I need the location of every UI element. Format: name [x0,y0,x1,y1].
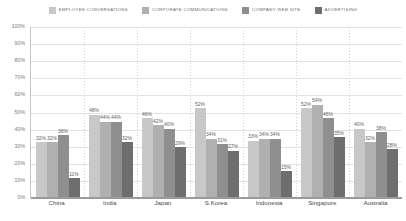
bar-group: 52%34%31%27% [190,27,243,197]
bar-value-label: 44% [100,115,110,120]
legend-swatch-icon [315,7,322,14]
bar[interactable]: 11% [69,26,80,197]
bar-fill [228,151,239,197]
bar-fill [69,178,80,197]
bar[interactable]: 35% [334,26,345,197]
bar[interactable]: 32% [365,26,376,197]
bar[interactable]: 40% [164,26,175,197]
bar-group: 32%32%36%11% [31,27,84,197]
bar-value-label: 36% [58,129,68,134]
legend-item[interactable]: COMPANY WEB SITE [242,7,300,14]
bar-group: 33%34%34%15% [243,27,296,197]
bar-group: 40%32%38%28% [349,27,402,197]
bar-fill [206,139,217,197]
y-axis-tick-label: 0% [18,195,26,200]
x-axis: ChinaIndiaJapanS.KoreaIndonesiaSingapore… [30,200,402,206]
bar[interactable]: 36% [58,26,69,197]
bar[interactable]: 48% [89,26,100,197]
bar[interactable]: 34% [259,26,270,197]
bar-fill [248,141,259,197]
bar-fill [281,171,292,197]
y-axis-tick-label: 60% [15,93,25,98]
bar-fill [142,118,153,197]
bar-fill [153,125,164,197]
bar-fill [301,108,312,197]
bar-fill [36,142,47,197]
bar-value-label: 48% [89,108,99,113]
bar-fill [58,135,69,197]
bar[interactable]: 31% [217,26,228,197]
y-axis-tick-label: 20% [15,161,25,166]
bar-value-label: 32% [47,136,57,141]
bar-fill [164,129,175,197]
legend-label: CORPORATE COMMUNICATIONS [152,8,228,12]
bar-value-label: 35% [334,131,344,136]
x-axis-category-label: S.Korea [189,200,242,206]
bar[interactable]: 34% [270,26,281,197]
bar[interactable]: 54% [312,26,323,197]
bar-fill [122,142,133,197]
bar-value-label: 15% [281,165,291,170]
bar-value-label: 32% [365,136,375,141]
legend-swatch-icon [49,7,56,14]
bar[interactable]: 46% [323,26,334,197]
plot-area: 32%32%36%11%48%44%44%32%46%42%40%29%52%3… [30,27,402,198]
bar-fill [334,137,345,197]
y-axis-tick-label: 40% [15,127,25,132]
bar-value-label: 52% [195,102,205,107]
bar[interactable]: 52% [195,26,206,197]
bar-value-label: 34% [206,132,216,137]
bar[interactable]: 34% [206,26,217,197]
x-axis-category-label: China [30,200,83,206]
bar-value-label: 34% [270,132,280,137]
y-axis: 100%90%80%70%60%50%40%30%20%10%0% [0,27,28,198]
legend-item[interactable]: ADVERTISING [315,7,358,14]
bar[interactable]: 27% [228,26,239,197]
bar-fill [217,144,228,197]
bar-fill [376,132,387,197]
bar-group: 48%44%44%32% [84,27,137,197]
bar-fill [270,139,281,197]
bar[interactable]: 42% [153,26,164,197]
legend-label: EMPLOYEE CONVERSATIONS [59,8,128,12]
legend-item[interactable]: EMPLOYEE CONVERSATIONS [49,7,128,14]
bar-value-label: 33% [248,134,258,139]
grouped-bar-chart: EMPLOYEE CONVERSATIONSCORPORATE COMMUNIC… [0,0,406,221]
legend-label: ADVERTISING [325,8,358,12]
x-axis-category-label: Indonesia [243,200,296,206]
bar[interactable]: 28% [387,26,398,197]
bar-fill [100,122,111,197]
x-axis-category-label: Australia [349,200,402,206]
bar-value-label: 38% [376,126,386,131]
y-axis-tick-label: 100% [12,24,25,29]
bar[interactable]: 40% [354,26,365,197]
chart-legend: EMPLOYEE CONVERSATIONSCORPORATE COMMUNIC… [0,7,406,14]
bar-value-label: 40% [354,122,364,127]
bar-fill [387,149,398,197]
bar-value-label: 28% [387,143,397,148]
bar[interactable]: 32% [122,26,133,197]
bar[interactable]: 15% [281,26,292,197]
bar-value-label: 32% [36,136,46,141]
bar-value-label: 31% [217,138,227,143]
legend-item[interactable]: CORPORATE COMMUNICATIONS [142,7,228,14]
y-axis-tick-label: 30% [15,144,25,149]
bar-value-label: 42% [153,119,163,124]
bar[interactable]: 32% [36,26,47,197]
bar-fill [354,129,365,197]
bar[interactable]: 38% [376,26,387,197]
bar[interactable]: 33% [248,26,259,197]
bar[interactable]: 46% [142,26,153,197]
bar[interactable]: 32% [47,26,58,197]
y-axis-tick-label: 70% [15,76,25,81]
bar-group: 52%54%46%35% [296,27,349,197]
bar-group: 46%42%40%29% [137,27,190,197]
bar[interactable]: 52% [301,26,312,197]
bar[interactable]: 44% [100,26,111,197]
bar-value-label: 46% [142,112,152,117]
legend-swatch-icon [142,7,149,14]
bar-fill [111,122,122,197]
bar[interactable]: 44% [111,26,122,197]
bar[interactable]: 29% [175,26,186,197]
bar-fill [365,142,376,197]
